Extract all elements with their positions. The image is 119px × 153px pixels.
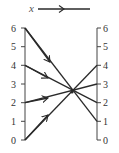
direction-label: x — [28, 2, 34, 14]
line-6-to-1 — [25, 28, 97, 121]
right-tick-2: 2 — [103, 97, 108, 108]
left-tick-4: 4 — [11, 60, 16, 71]
right-axis: 6 5 4 3 2 1 0 — [97, 23, 108, 146]
left-tick-3: 3 — [11, 79, 16, 90]
left-tick-5: 5 — [11, 41, 16, 52]
right-tick-0: 0 — [103, 135, 108, 146]
crossing-lines-diagram: x 6 5 4 3 2 1 0 6 5 4 3 2 1 0 — [0, 0, 119, 153]
intersection-point — [70, 90, 73, 93]
left-tick-2: 2 — [11, 97, 16, 108]
left-tick-0: 0 — [11, 135, 16, 146]
right-tick-3: 3 — [103, 79, 108, 90]
left-tick-1: 1 — [11, 116, 16, 127]
left-axis: 6 5 4 3 2 1 0 — [11, 23, 25, 146]
direction-indicator: x — [28, 2, 90, 14]
left-tick-6: 6 — [11, 23, 16, 34]
right-tick-5: 5 — [103, 41, 108, 52]
line-4-to-2 — [25, 65, 97, 102]
line-0-to-4 — [25, 65, 97, 140]
right-tick-4: 4 — [103, 60, 108, 71]
line-2-to-3 — [25, 84, 97, 103]
right-tick-1: 1 — [103, 116, 108, 127]
crossing-lines — [25, 28, 97, 140]
right-tick-6: 6 — [103, 23, 108, 34]
